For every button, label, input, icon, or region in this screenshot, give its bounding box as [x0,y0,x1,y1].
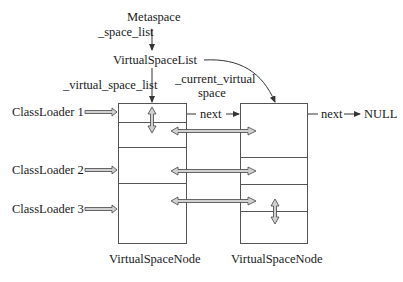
current-virtual-label-line1: _current_virtual [175,72,256,86]
next-link-label: next [200,107,222,121]
left-node-caption: VirtualSpaceNode [109,252,201,266]
diagram-graphics [0,0,403,282]
next-null-link-label: next [321,107,343,121]
space-list-label: _space_list [98,25,154,39]
virtual-space-list-class-label: VirtualSpaceList [113,53,197,67]
vertical-double-arrows [148,107,279,224]
classloader-3-label: ClassLoader 3 [12,202,84,216]
virtual-space-list-field-label: _virtual_space_list [63,78,157,92]
chunk-double-arrows [171,127,256,205]
right-node-caption: VirtualSpaceNode [231,252,323,266]
classloader-2-label: ClassLoader 2 [12,163,84,177]
metaspace-label: Metaspace [127,10,180,24]
current-virtual-label-line2: space [198,86,226,100]
classloader-arrows [85,108,117,213]
null-label: NULL [364,107,397,121]
classloader-1-label: ClassLoader 1 [12,105,84,119]
